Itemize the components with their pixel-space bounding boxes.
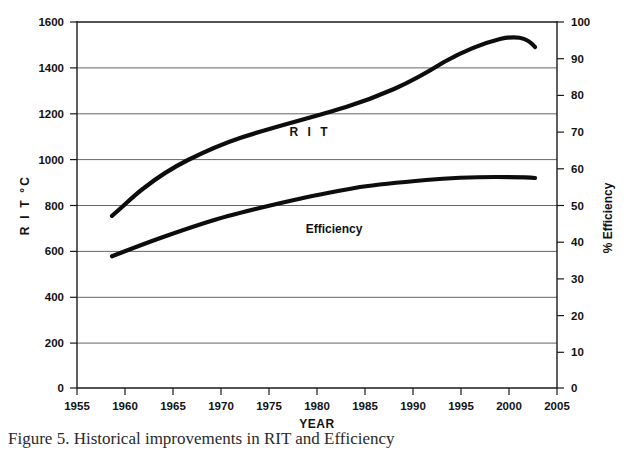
left-axis-ticks: [70, 22, 77, 388]
x-tick-label: 1975: [256, 400, 282, 412]
x-tick-label: 1995: [448, 400, 474, 412]
line-chart: 1600 1400 1200 1000 800 600 400 200 0 10…: [0, 0, 630, 432]
left-axis-title: R I T °C: [18, 175, 32, 235]
x-tick-label: 2005: [544, 400, 570, 412]
left-tick-label: 400: [45, 291, 64, 303]
x-tick-label: 1955: [64, 400, 90, 412]
x-tick-label: 2000: [496, 400, 522, 412]
left-axis-labels: 1600 1400 1200 1000 800 600 400 200 0: [38, 16, 64, 394]
x-tick-label: 1990: [400, 400, 426, 412]
left-tick-label: 1600: [38, 16, 64, 28]
right-tick-label: 60: [571, 163, 584, 175]
right-axis-title: % Efficiency: [601, 182, 615, 253]
right-tick-label: 40: [571, 236, 584, 248]
series-label-rit: R I T: [290, 125, 331, 139]
x-tick-label: 1965: [160, 400, 186, 412]
right-axis-ticks: [557, 22, 564, 388]
left-tick-label: 800: [45, 200, 64, 212]
figure-5: 1600 1400 1200 1000 800 600 400 200 0 10…: [0, 0, 630, 451]
right-tick-label: 0: [571, 382, 577, 394]
right-tick-label: 100: [571, 16, 590, 28]
right-tick-label: 70: [571, 126, 584, 138]
x-tick-label: 1970: [208, 400, 234, 412]
x-axis-title: YEAR: [299, 417, 334, 431]
right-tick-label: 50: [571, 200, 584, 212]
right-tick-label: 30: [571, 273, 584, 285]
figure-caption-clip: Figure 5. Historical improvements in RIT…: [0, 432, 630, 451]
series-label-efficiency: Efficiency: [306, 222, 363, 236]
figure-caption: Figure 5. Historical improvements in RIT…: [8, 432, 628, 449]
left-tick-label: 1200: [38, 108, 64, 120]
left-tick-label: 600: [45, 245, 64, 257]
right-axis-labels: 100 90 80 70 60 50 40 30 20 10 0: [571, 16, 590, 394]
left-tick-label: 0: [58, 382, 64, 394]
left-tick-label: 200: [45, 337, 64, 349]
x-tick-label: 1985: [352, 400, 378, 412]
right-tick-label: 80: [571, 89, 584, 101]
right-tick-label: 10: [571, 346, 584, 358]
right-tick-label: 20: [571, 310, 584, 322]
gridlines: [77, 68, 557, 343]
bottom-axis-labels: 1955 1960 1965 1970 1975 1980 1985 1990 …: [64, 400, 570, 412]
right-tick-label: 90: [571, 53, 584, 65]
series-curve-efficiency: [112, 177, 535, 256]
x-tick-label: 1980: [304, 400, 330, 412]
left-tick-label: 1000: [38, 154, 64, 166]
bottom-axis-ticks: [77, 388, 557, 395]
x-tick-label: 1960: [112, 400, 138, 412]
plot-frame: [77, 21, 557, 388]
left-tick-label: 1400: [38, 62, 64, 74]
